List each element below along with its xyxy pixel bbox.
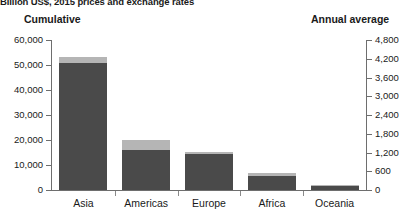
bar-segment-cumulative: [248, 176, 296, 190]
right-tick-label: 1,800: [375, 129, 399, 139]
left-tick-label: 60,000: [14, 35, 43, 45]
right-tick-mark: [367, 134, 372, 135]
left-tick-label: 40,000: [14, 85, 43, 95]
right-tick-mark: [367, 78, 372, 79]
left-tick-mark: [46, 90, 51, 91]
left-axis-title: Cumulative: [24, 13, 81, 25]
right-tick-mark: [367, 190, 372, 191]
left-tick-mark: [46, 165, 51, 166]
bar-asia[interactable]: [59, 57, 107, 190]
bar-europe[interactable]: [185, 152, 233, 190]
right-tick-mark: [367, 59, 372, 60]
right-tick-label: 2,400: [375, 110, 399, 120]
right-axis-title: Annual average: [311, 13, 389, 25]
left-tick-mark: [46, 40, 51, 41]
left-tick-mark: [46, 140, 51, 141]
left-tick-label: 20,000: [14, 135, 43, 145]
right-tick-label: 0: [375, 185, 380, 195]
chart-subtitle: Billion US$, 2015 prices and exchange ra…: [0, 0, 194, 7]
bar-oceania[interactable]: [311, 185, 359, 190]
right-tick-label: 1,200: [375, 148, 399, 158]
right-tick-label: 4,800: [375, 35, 399, 45]
left-tick-label: 0: [38, 185, 43, 195]
right-tick-mark: [367, 96, 372, 97]
x-tick-mark: [115, 191, 116, 196]
right-tick-label: 3,000: [375, 91, 399, 101]
bar-americas[interactable]: [122, 140, 170, 190]
left-tick-mark: [46, 65, 51, 66]
bottom-axis-line: [51, 190, 367, 191]
x-tick-mark: [303, 191, 304, 196]
bar-segment-cumulative: [185, 154, 233, 190]
left-tick-label: 10,000: [14, 160, 43, 170]
right-tick-label: 600: [375, 166, 391, 176]
bar-segment-cumulative: [311, 186, 359, 190]
right-tick-label: 3,600: [375, 73, 399, 83]
left-tick-mark: [46, 115, 51, 116]
bar-africa[interactable]: [248, 173, 296, 190]
category-label-oceania: Oceania: [295, 198, 375, 209]
x-tick-mark: [240, 191, 241, 196]
x-tick-mark: [178, 191, 179, 196]
right-tick-mark: [367, 171, 372, 172]
plot-area: [52, 40, 366, 190]
left-tick-mark: [46, 190, 51, 191]
right-tick-mark: [367, 115, 372, 116]
left-tick-label: 30,000: [14, 110, 43, 120]
left-tick-label: 50,000: [14, 60, 43, 70]
right-tick-mark: [367, 40, 372, 41]
right-tick-label: 4,200: [375, 54, 399, 64]
bar-segment-cumulative: [59, 63, 107, 190]
bar-segment-cumulative: [122, 150, 170, 190]
right-tick-mark: [367, 153, 372, 154]
chart-figure: Billion US$, 2015 prices and exchange ra…: [0, 0, 415, 211]
bar-segment-annual-average: [122, 140, 170, 150]
